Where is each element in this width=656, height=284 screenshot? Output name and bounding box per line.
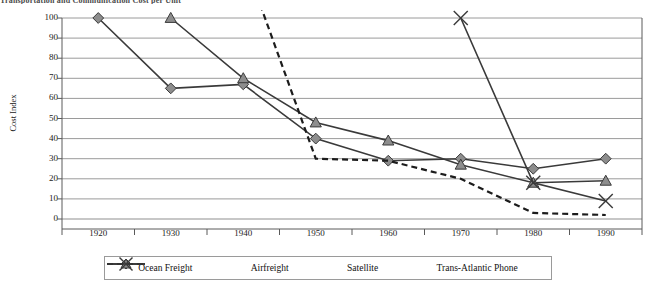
- x-tick-label-1950: 1950: [279, 228, 353, 238]
- x-tick-label-1940: 1940: [206, 228, 280, 238]
- x-tick-label-1960: 1960: [351, 228, 425, 238]
- x-tick-label-1970: 1970: [424, 228, 498, 238]
- data-point-marker: [600, 153, 611, 164]
- chart-legend: Ocean FreightAirfreightSatelliteTrans-At…: [104, 256, 552, 280]
- data-point-marker: [165, 12, 176, 22]
- x-tick-label-1930: 1930: [134, 228, 208, 238]
- x-tick-label-1920: 1920: [61, 228, 135, 238]
- plot-area: [0, 0, 656, 284]
- legend-item[interactable]: Trans-Atlantic Phone: [437, 263, 518, 273]
- legend-item[interactable]: Airfreight: [251, 263, 289, 273]
- x-tick-label-1990: 1990: [569, 228, 643, 238]
- legend-item[interactable]: Satellite: [347, 263, 378, 273]
- legend-label: Satellite: [347, 263, 378, 273]
- legend-label: Airfreight: [251, 263, 289, 273]
- chart-root: Transportation and Communication Cost pe…: [0, 0, 656, 284]
- x-solid-key: [105, 257, 147, 271]
- x-tick-label-1980: 1980: [496, 228, 570, 238]
- legend-label: Trans-Atlantic Phone: [437, 263, 518, 273]
- series-line: [98, 18, 606, 169]
